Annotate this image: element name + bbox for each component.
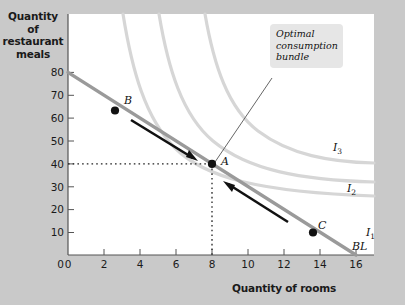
arrow-b-to-a <box>131 120 198 161</box>
figure-optimal-consumption-bundle: Quantity of restaurant meals Quantity of… <box>0 0 405 305</box>
y-axis-title-line3: meals <box>2 48 64 61</box>
curve-label-bl: BL <box>352 240 367 253</box>
y-tick-label-10: 10 <box>38 226 64 238</box>
x-axis-title: Quantity of rooms <box>232 282 336 294</box>
y-axis-title-line1: Quantity of <box>2 10 64 35</box>
y-tick-label-50: 50 <box>38 135 64 147</box>
y-axis-title-line2: restaurant <box>2 35 64 48</box>
y-tick-label-40: 40 <box>38 158 64 170</box>
y-tick-label-70: 70 <box>38 89 64 101</box>
y-axis-title: Quantity of restaurant meals <box>2 10 64 60</box>
curve-label-i3-sub: 3 <box>337 147 342 156</box>
callout-leader-line <box>215 78 272 162</box>
data-point-a <box>208 160 216 168</box>
x-tick-label-14: 14 <box>309 258 331 270</box>
curve-label-i2-sub: 2 <box>351 188 356 197</box>
x-tick-label-4: 4 <box>129 258 151 270</box>
x-tick-label-6: 6 <box>165 258 187 270</box>
y-tick-label-60: 60 <box>38 112 64 124</box>
point-label-c: C <box>318 219 326 232</box>
x-tick-label-0: 0 <box>57 258 79 270</box>
y-tick-label-30: 30 <box>38 181 64 193</box>
x-tick-label-16: 16 <box>345 258 367 270</box>
y-tick-label-80: 80 <box>38 66 64 78</box>
point-label-b: B <box>124 94 132 107</box>
curve-label-i1-sub: 1 <box>370 232 375 241</box>
y-axis-ticks <box>68 72 74 232</box>
x-tick-label-2: 2 <box>93 258 115 270</box>
data-point-c <box>309 228 317 236</box>
data-point-b <box>111 106 119 114</box>
curve-label-i1: I1 <box>366 226 375 241</box>
optimal-bundle-callout: Optimal consumption bundle <box>270 24 343 68</box>
x-tick-label-10: 10 <box>237 258 259 270</box>
x-axis-ticks <box>104 249 356 255</box>
x-tick-label-8: 8 <box>201 258 223 270</box>
x-tick-label-12: 12 <box>273 258 295 270</box>
curve-label-i2: I2 <box>347 182 356 197</box>
curve-label-i3: I3 <box>333 141 342 156</box>
point-label-a: A <box>221 155 229 168</box>
y-tick-label-20: 20 <box>38 203 64 215</box>
